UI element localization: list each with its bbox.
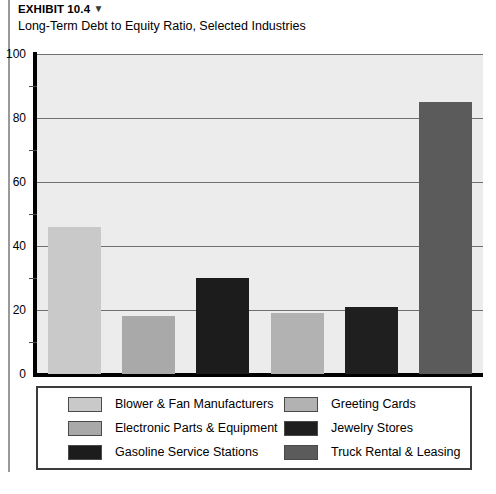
y-axis-tick-label: 100 (6, 48, 26, 60)
exhibit-number: EXHIBIT 10.4 (18, 3, 90, 15)
legend-item: Jewelry Stores (270, 421, 470, 436)
legend-item: Gasoline Service Stations (38, 445, 270, 460)
y-axis-tick-label: 0 (19, 368, 26, 380)
exhibit-label: EXHIBIT 10.4 ▼ (18, 2, 478, 17)
legend-swatch (284, 445, 318, 460)
y-axis-minor-tick (29, 214, 37, 215)
legend-item: Greeting Cards (270, 397, 470, 412)
legend-label: Blower & Fan Manufacturers (115, 397, 273, 411)
chart-title: Long-Term Debt to Equity Ratio, Selected… (18, 18, 478, 34)
bar-series (37, 54, 483, 374)
legend-item: Electronic Parts & Equipment (38, 421, 270, 436)
y-axis-tick-label: 60 (13, 176, 26, 188)
legend-swatch (68, 421, 102, 436)
legend-item: Truck Rental & Leasing (270, 445, 470, 460)
legend-label: Gasoline Service Stations (115, 445, 258, 459)
y-axis-minor-tick (29, 86, 37, 87)
legend-swatch (284, 421, 318, 436)
legend-label: Jewelry Stores (331, 421, 413, 435)
bar (48, 227, 101, 374)
legend-swatch (284, 397, 318, 412)
bar (122, 316, 175, 374)
y-axis-tick-label: 20 (13, 304, 26, 316)
legend-label: Truck Rental & Leasing (331, 445, 460, 459)
legend-swatch (68, 397, 102, 412)
legend-swatch (68, 445, 102, 460)
bar (345, 307, 398, 374)
bar-chart: 020406080100 (37, 54, 483, 374)
bar (271, 313, 324, 374)
y-axis-tick-label: 40 (13, 240, 26, 252)
y-axis-minor-tick (29, 150, 37, 151)
triangle-down-icon: ▼ (93, 2, 103, 16)
bar (196, 278, 249, 374)
legend-label: Greeting Cards (331, 397, 416, 411)
chart-legend: Blower & Fan ManufacturersGreeting Cards… (36, 386, 472, 470)
legend-label: Electronic Parts & Equipment (115, 421, 278, 435)
y-axis-minor-tick (29, 278, 37, 279)
exhibit-header: EXHIBIT 10.4 ▼ Long-Term Debt to Equity … (18, 2, 478, 34)
y-axis-minor-tick (29, 342, 37, 343)
page-margin-rule (8, 0, 10, 472)
y-axis-tick-label: 80 (13, 112, 26, 124)
bar (419, 102, 472, 374)
legend-item: Blower & Fan Manufacturers (38, 397, 270, 412)
